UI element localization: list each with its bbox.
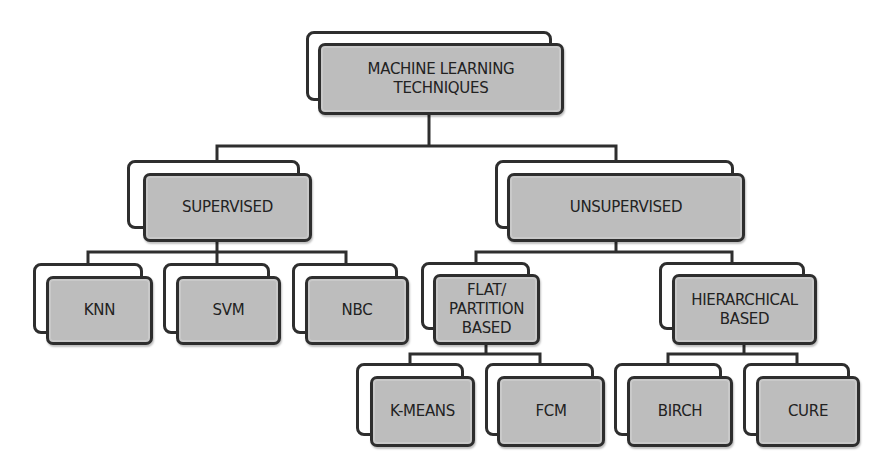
- node-box: UNSUPERVISED: [507, 173, 745, 242]
- node-box: MACHINE LEARNING TECHNIQUES: [318, 43, 564, 115]
- node-label: BIRCH: [658, 402, 703, 421]
- node-label: MACHINE LEARNING TECHNIQUES: [368, 60, 515, 98]
- node-label: UNSUPERVISED: [570, 198, 682, 217]
- node-box: NBC: [305, 276, 409, 345]
- node-box: KNN: [46, 276, 153, 345]
- node-box: CURE: [756, 376, 860, 447]
- node-box: SVM: [176, 276, 281, 345]
- node-box: FLAT/ PARTITION BASED: [433, 274, 540, 345]
- node-box: K-MEANS: [370, 376, 475, 447]
- node-label: FCM: [535, 402, 566, 421]
- node-label: HIERARCHICAL BASED: [691, 291, 798, 329]
- node-label: FLAT/ PARTITION BASED: [449, 281, 524, 338]
- node-label: CURE: [788, 402, 828, 421]
- node-box: HIERARCHICAL BASED: [672, 274, 817, 345]
- node-box: BIRCH: [627, 376, 733, 447]
- node-box: FCM: [497, 376, 605, 447]
- node-box: SUPERVISED: [143, 173, 312, 242]
- node-label: NBC: [342, 301, 373, 320]
- node-label: K-MEANS: [390, 402, 455, 421]
- node-label: SVM: [213, 301, 245, 320]
- node-label: KNN: [84, 301, 115, 320]
- ml-techniques-diagram: MACHINE LEARNING TECHNIQUES SUPERVISED U…: [0, 0, 894, 476]
- node-label: SUPERVISED: [182, 198, 273, 217]
